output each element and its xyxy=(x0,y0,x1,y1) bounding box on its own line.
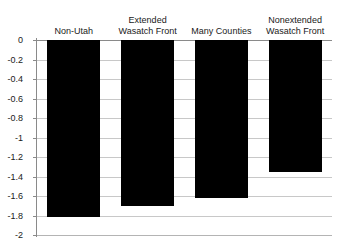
y-axis-tick-mark xyxy=(33,118,37,119)
category-label: Nonextended Wasatch Front xyxy=(252,15,338,36)
y-axis-tick-label: -1 xyxy=(0,134,23,143)
bar[interactable] xyxy=(269,40,322,172)
y-axis-tick-mark xyxy=(33,235,37,236)
gridline xyxy=(37,235,332,236)
y-axis-tick-label: -1.8 xyxy=(0,212,23,221)
y-axis-tick-label: -0.4 xyxy=(0,75,23,84)
y-axis-tick-mark xyxy=(33,196,37,197)
bar-chart: 0-0.2-0.4-0.6-0.8-1-1.2-1.4-1.6-1.8-2 No… xyxy=(0,0,342,251)
y-axis-tick-label: -2 xyxy=(0,231,23,240)
y-axis-tick-mark xyxy=(33,216,37,217)
y-axis-tick-label: -0.6 xyxy=(0,95,23,104)
y-axis-tick-mark xyxy=(33,99,37,100)
y-axis-tick-mark xyxy=(33,138,37,139)
y-axis-tick-label: -1.2 xyxy=(0,153,23,162)
y-axis-tick-label: -0.2 xyxy=(0,56,23,65)
y-axis-tick-mark xyxy=(33,157,37,158)
y-axis-tick-label: -1.6 xyxy=(0,192,23,201)
bar[interactable] xyxy=(121,40,174,206)
y-axis-tick-mark xyxy=(33,79,37,80)
y-axis-tick-label: -1.4 xyxy=(0,173,23,182)
y-axis-tick-label: 0 xyxy=(0,36,23,45)
y-axis-tick-mark xyxy=(33,177,37,178)
bar[interactable] xyxy=(47,40,100,217)
y-axis-tick-label: -0.8 xyxy=(0,114,23,123)
y-axis-tick-mark xyxy=(33,60,37,61)
bar[interactable] xyxy=(195,40,248,198)
y-axis-tick-mark xyxy=(33,40,37,41)
plot-area: 0-0.2-0.4-0.6-0.8-1-1.2-1.4-1.6-1.8-2 xyxy=(37,40,332,235)
